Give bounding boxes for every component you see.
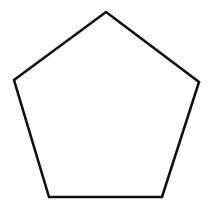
pentagon-shape bbox=[14, 12, 199, 197]
pentagon-figure bbox=[0, 0, 210, 209]
diagram-canvas bbox=[0, 0, 210, 209]
